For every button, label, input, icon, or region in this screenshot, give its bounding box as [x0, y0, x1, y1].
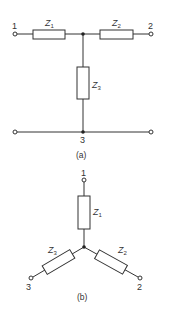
impedance-label-b-z2: Z2 — [117, 245, 128, 256]
impedance-label-a-z1: Z1 — [44, 18, 55, 29]
impedance-b-z1 — [78, 196, 90, 229]
terminal-label-a-3: 3 — [80, 135, 85, 145]
impedance-a-z3 — [77, 67, 89, 99]
terminal-b-1 — [82, 178, 86, 182]
impedance-a-z1 — [33, 30, 65, 39]
terminal-label-b-1: 1 — [81, 168, 86, 178]
circuit-a-t-network: 1 2 3 Z1 Z2 Z3 (a) — [12, 18, 153, 160]
circuit-diagrams: 1 2 3 Z1 Z2 Z3 (a) 1 2 — [0, 0, 177, 316]
impedance-label-b-z3: Z3 — [47, 245, 58, 256]
terminal-label-a-1: 1 — [12, 21, 17, 31]
terminal-a-2 — [149, 32, 153, 36]
junction-b-center — [82, 245, 86, 249]
circuit-b-star-network: 1 2 3 Z1 Z2 Z3 (b) — [26, 168, 142, 302]
terminal-label-b-2: 2 — [137, 282, 142, 292]
terminal-b-2 — [138, 276, 142, 280]
caption-a: (a) — [76, 150, 87, 160]
impedance-label-a-z3: Z3 — [91, 80, 102, 91]
terminal-a-1 — [13, 32, 17, 36]
terminal-label-a-2: 2 — [148, 21, 153, 31]
terminal-a-bottom-right — [149, 130, 153, 134]
caption-b: (b) — [77, 292, 88, 302]
junction-a-bottom — [81, 130, 85, 134]
terminal-a-bottom-left — [13, 130, 17, 134]
terminal-b-3 — [29, 276, 33, 280]
impedance-label-b-z1: Z1 — [92, 207, 103, 218]
junction-a-top — [81, 32, 85, 36]
impedance-label-a-z2: Z2 — [111, 18, 122, 29]
impedance-a-z2 — [100, 30, 133, 39]
terminal-label-b-3: 3 — [26, 282, 31, 292]
